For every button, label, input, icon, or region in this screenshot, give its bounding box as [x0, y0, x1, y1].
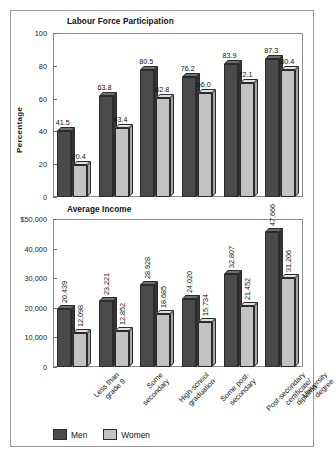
- bar-front-face: [182, 77, 196, 197]
- bar-value-label: 47,666: [268, 192, 277, 226]
- bar-side-face: [87, 329, 91, 367]
- bar-value-label: 76.2: [181, 64, 195, 73]
- bar-men: [182, 77, 196, 197]
- bar-front-face: [140, 285, 154, 367]
- bar-value-label: 21,452: [243, 266, 252, 300]
- bar-side-face: [129, 124, 133, 197]
- bar-value-label: 32,807: [227, 234, 236, 268]
- bar-side-face: [212, 89, 216, 197]
- x-axis-category-label: Less than grade 9: [92, 371, 127, 406]
- bar-front-face: [73, 165, 87, 197]
- bar-front-face: [240, 306, 254, 367]
- bar-men: [265, 59, 279, 197]
- bar-women: [156, 314, 170, 367]
- x-axis-category-label: Some post- secondary: [219, 371, 258, 410]
- y-tick-label: 60: [39, 94, 47, 103]
- bar-front-face: [224, 64, 238, 197]
- bar-women: [73, 333, 87, 367]
- y-tick-label: 0: [43, 363, 47, 372]
- y-tick-label: 20: [39, 160, 47, 169]
- bar-value-label: 20,439: [60, 269, 69, 303]
- bar-value-label: 41.5: [56, 118, 70, 127]
- y-axis-title-percentage: Percentage: [15, 69, 24, 153]
- bar-front-face: [156, 314, 170, 367]
- bar-side-face: [295, 274, 299, 367]
- bar-men: [224, 64, 238, 197]
- bar-women: [115, 128, 129, 197]
- bar-value-label: 63.8: [98, 83, 112, 92]
- bar-women: [198, 322, 212, 367]
- bar-front-face: [198, 322, 212, 367]
- y-tick-mark: [53, 99, 57, 100]
- bar-value-label: 80.4: [280, 57, 294, 66]
- bar-value-label: 15,734: [201, 282, 210, 316]
- y-tick-label: 100: [35, 29, 47, 38]
- bar-front-face: [115, 331, 129, 367]
- bar-side-face: [129, 327, 133, 367]
- legend-label-men: Men: [71, 430, 87, 440]
- bar-value-label: 23,221: [102, 261, 111, 295]
- legend-label-women: Women: [121, 430, 150, 440]
- bar-value-label: 83.9: [223, 51, 237, 60]
- y-tick-label: 80: [39, 61, 47, 70]
- bar-men: [57, 309, 71, 367]
- y-tick-label: 40,000: [24, 244, 47, 253]
- y-tick-label: 10,000: [24, 333, 47, 342]
- y-tick-mark: [53, 197, 57, 198]
- bar-men: [99, 96, 113, 197]
- bar-value-label: 12,098: [76, 293, 85, 327]
- bar-front-face: [140, 70, 154, 197]
- bar-value-label: 72.1: [239, 70, 253, 79]
- legend: Men Women: [53, 429, 150, 440]
- x-axis-category-label: Some secondary: [135, 371, 171, 407]
- bar-front-face: [99, 301, 113, 367]
- y-tick-label: 40: [39, 127, 47, 136]
- bar-men: [140, 70, 154, 197]
- bar-side-face: [295, 66, 299, 197]
- bar-front-face: [99, 96, 113, 197]
- bar-front-face: [224, 274, 238, 367]
- bar-front-face: [198, 93, 212, 197]
- bar-men: [265, 232, 279, 367]
- bar-front-face: [57, 309, 71, 367]
- bar-front-face: [156, 98, 170, 197]
- bar-front-face: [115, 128, 129, 197]
- average-income-chart: Average Income 010,00020,00030,00040,000…: [11, 201, 313, 447]
- legend-item-women: Women: [103, 429, 150, 440]
- bar-men: [182, 299, 196, 367]
- bar-side-face: [212, 318, 216, 367]
- bar-men: [57, 131, 71, 197]
- bar-men: [99, 301, 113, 367]
- x-axis-category-labels: Less than grade 9Some secondaryHigh-scho…: [53, 369, 303, 429]
- bar-value-label: 18,685: [159, 274, 168, 308]
- y-tick-mark: [53, 66, 57, 67]
- y-tick-label: $50,000: [20, 215, 47, 224]
- legend-swatch-men: [53, 429, 67, 440]
- figure-frame: Labour Force Participation Percentage 02…: [10, 10, 314, 447]
- bar-women: [73, 165, 87, 197]
- bar-front-face: [281, 70, 295, 197]
- bar-value-label: 66.0: [197, 80, 211, 89]
- bar-value-label: 87.3: [264, 46, 278, 55]
- bar-women: [156, 98, 170, 197]
- bar-side-face: [87, 161, 91, 197]
- bar-front-face: [265, 59, 279, 197]
- bar-women: [115, 331, 129, 367]
- bar-value-label: 31,206: [284, 238, 293, 272]
- bar-value-label: 80.5: [139, 57, 153, 66]
- labour-force-participation-chart: Labour Force Participation Percentage 02…: [11, 11, 313, 207]
- chart-title-income: Average Income: [67, 205, 131, 214]
- y-tick-mark: [53, 367, 57, 368]
- bar-value-label: 24,020: [185, 259, 194, 293]
- bar-women: [281, 70, 295, 197]
- bar-value-label: 43.4: [114, 115, 128, 124]
- bar-value-label: 20.4: [72, 152, 86, 161]
- legend-item-men: Men: [53, 429, 87, 440]
- bar-value-label: 28,928: [143, 245, 152, 279]
- bar-value-label: 62.8: [155, 85, 169, 94]
- bar-front-face: [240, 83, 254, 197]
- y-tick-mark: [53, 219, 57, 220]
- bar-men: [140, 285, 154, 367]
- legend-swatch-women: [103, 429, 117, 440]
